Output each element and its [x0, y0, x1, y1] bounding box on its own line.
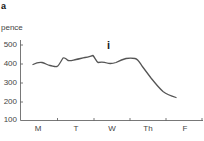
series-line [33, 56, 176, 98]
x-axis [21, 118, 204, 121]
y-axis [21, 40, 24, 121]
plot-area [0, 0, 204, 141]
